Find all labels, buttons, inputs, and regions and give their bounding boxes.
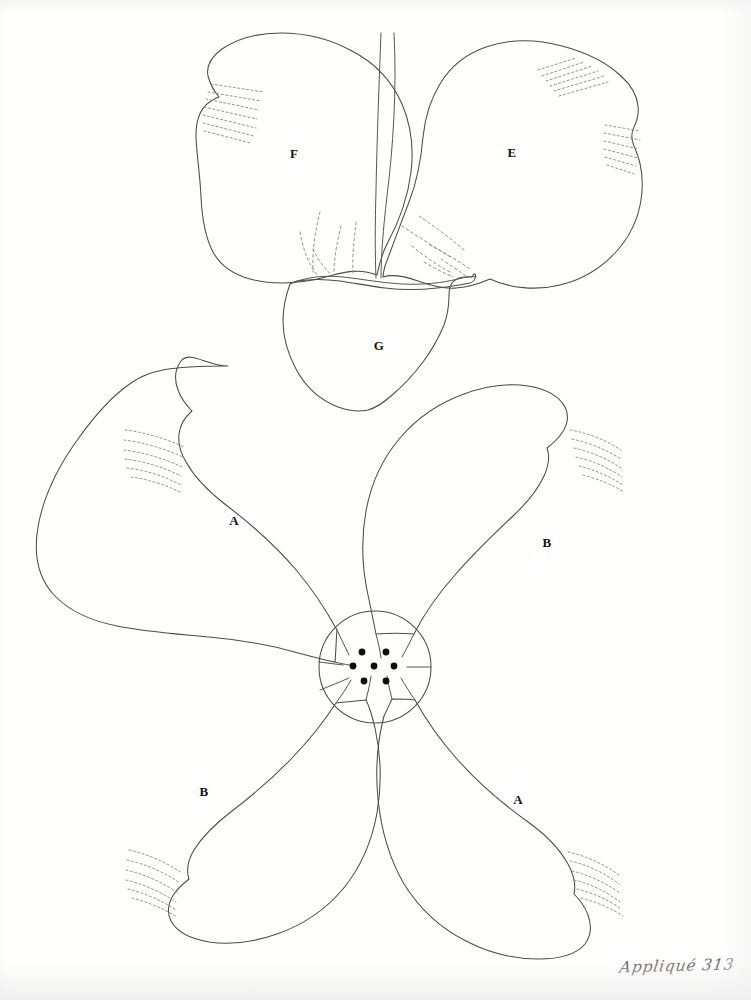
stamen-dot — [391, 663, 398, 670]
pattern-linework: .ink { fill:none; stroke:#4a4a4a; stroke… — [0, 0, 751, 1000]
stamen-dot — [383, 649, 390, 656]
stamen-dot-cluster — [350, 649, 398, 685]
lower-flower-group — [36, 357, 624, 959]
appliqué-pattern-sheet: .ink { fill:none; stroke:#4a4a4a; stroke… — [0, 0, 751, 1000]
piece-label-B-upper-right: B — [543, 535, 552, 551]
petal-B-lower-left-outline — [169, 700, 381, 943]
petal-B-upper-right-outline — [363, 385, 568, 634]
petal-A-upper-left-outline — [36, 357, 337, 662]
vein-group-right — [402, 216, 470, 277]
petal-E-outline — [383, 41, 642, 288]
stamen-dot — [359, 649, 366, 656]
piece-label-F: F — [290, 146, 298, 162]
stamen-dot — [371, 663, 378, 670]
vein-group-left — [300, 212, 356, 277]
stamen-dot — [350, 663, 357, 670]
piece-label-A-lower-right: A — [513, 792, 523, 808]
upper-flower-group — [196, 33, 642, 411]
hatch-group-A-upper-left — [124, 430, 184, 493]
stamen-dot — [361, 678, 368, 685]
hatch-group-E-side — [604, 125, 640, 174]
piece-label-E: E — [508, 145, 517, 161]
hatch-group-A-lower-right — [568, 852, 623, 916]
stamen-dot — [383, 678, 390, 685]
piece-label-G: G — [374, 338, 384, 354]
petal-A-lower-right-outline — [377, 699, 591, 959]
hatch-group-B-upper-right — [570, 430, 624, 492]
piece-label-A-upper-left: A — [229, 513, 239, 529]
hatch-group-E-top — [538, 58, 608, 96]
piece-label-B-lower-left: B — [200, 784, 209, 800]
sheet-caption: Appliqué 313 — [619, 956, 736, 977]
hatch-group-B-lower-left — [126, 850, 182, 917]
hatch-group-F-shoulder — [203, 84, 264, 143]
